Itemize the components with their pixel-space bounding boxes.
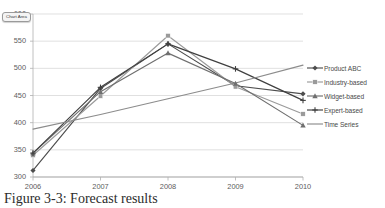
legend-marker-icon	[306, 118, 324, 130]
legend-item-label: Industry-based	[324, 79, 367, 86]
legend-item-label: Time Series	[324, 121, 358, 128]
chart-legend[interactable]: Product ABCIndustry-basedWidget-basedExp…	[306, 61, 384, 131]
y-axis-tick-label: 450	[0, 91, 26, 100]
x-tick-marks	[33, 177, 303, 181]
legend-item-label: Widget-based	[324, 93, 364, 100]
series-markers[interactable]	[30, 34, 306, 174]
legend-item[interactable]: Widget-based	[306, 89, 384, 103]
series-lines[interactable]	[33, 36, 303, 171]
legend-item-label: Expert-based	[324, 107, 363, 114]
gridlines	[33, 14, 303, 177]
y-axis-tick-label: 300	[0, 172, 26, 181]
legend-item[interactable]: Product ABC	[306, 61, 384, 75]
chart-area-tooltip: Chart Area	[2, 12, 31, 22]
chart-container[interactable]: 300350400450500550600 200620072008200920…	[0, 0, 385, 190]
legend-marker-icon	[306, 76, 324, 88]
figure-caption: Figure 3-3: Forecast results	[4, 190, 334, 208]
figure-container: 300350400450500550600 200620072008200920…	[0, 0, 385, 208]
y-axis-tick-label: 500	[0, 63, 26, 72]
legend-item[interactable]: Expert-based	[306, 103, 384, 117]
legend-item[interactable]: Industry-based	[306, 75, 384, 89]
legend-marker-icon	[306, 104, 324, 116]
y-axis-tick-label: 400	[0, 118, 26, 127]
legend-item-label: Product ABC	[324, 65, 361, 72]
legend-item[interactable]: Time Series	[306, 117, 384, 131]
y-axis-tick-label: 350	[0, 145, 26, 154]
legend-marker-icon	[306, 62, 324, 74]
y-axis-tick-label: 550	[0, 36, 26, 45]
legend-marker-icon	[306, 90, 324, 102]
